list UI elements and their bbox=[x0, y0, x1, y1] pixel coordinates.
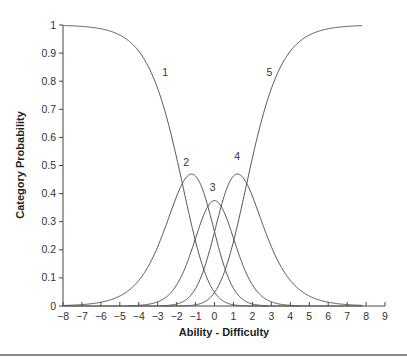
x-tick-label: −4 bbox=[133, 310, 145, 322]
y-tick-label: 1 bbox=[50, 19, 56, 31]
x-tick-label: 4 bbox=[287, 310, 293, 322]
x-tick-label: −6 bbox=[95, 310, 107, 322]
x-axis-title: Ability - Difficulty bbox=[179, 326, 270, 338]
curve-labels: 12345 bbox=[162, 66, 272, 193]
curve-label-4: 4 bbox=[234, 150, 240, 162]
curve-label-1: 1 bbox=[162, 66, 168, 78]
y-tick-label: 0.4 bbox=[41, 187, 56, 199]
y-tick-label: 0.3 bbox=[41, 215, 56, 227]
x-tick-label: 1 bbox=[231, 310, 237, 322]
curve-label-5: 5 bbox=[267, 66, 273, 78]
x-tick-label: −7 bbox=[76, 310, 88, 322]
y-tick-label: 0.5 bbox=[41, 159, 56, 171]
x-axis: −8−7−6−5−4−3−2−10123456789 bbox=[57, 302, 388, 322]
x-tick-label: −2 bbox=[171, 310, 183, 322]
x-tick-label: 9 bbox=[382, 310, 388, 322]
y-axis-title: Category Probability bbox=[14, 110, 26, 218]
x-tick-label: −5 bbox=[114, 310, 126, 322]
y-tick-label: 0 bbox=[50, 300, 56, 312]
curve-category-2 bbox=[63, 174, 268, 306]
curve-label-2: 2 bbox=[183, 156, 189, 168]
curve-category-4 bbox=[161, 174, 362, 306]
probability-curves bbox=[63, 26, 362, 306]
y-tick-label: 0.8 bbox=[41, 75, 56, 87]
curve-category-1 bbox=[63, 26, 362, 306]
y-tick-label: 0.9 bbox=[41, 47, 56, 59]
x-tick-label: −8 bbox=[57, 310, 69, 322]
x-tick-label: 3 bbox=[268, 310, 274, 322]
y-tick-label: 0.1 bbox=[41, 271, 56, 283]
x-tick-label: 8 bbox=[363, 310, 369, 322]
y-axis: 00.10.20.30.40.50.60.70.80.91 bbox=[41, 19, 63, 312]
x-tick-label: 2 bbox=[249, 310, 255, 322]
x-tick-label: 0 bbox=[212, 310, 218, 322]
x-tick-label: 7 bbox=[344, 310, 350, 322]
y-tick-label: 0.6 bbox=[41, 131, 56, 143]
x-tick-label: 5 bbox=[306, 310, 312, 322]
curve-label-3: 3 bbox=[210, 181, 216, 193]
curve-category-5 bbox=[63, 26, 362, 306]
bottom-divider-rule bbox=[0, 354, 407, 356]
category-probability-chart: 00.10.20.30.40.50.60.70.80.91 −8−7−6−5−4… bbox=[0, 0, 407, 362]
x-tick-label: −3 bbox=[152, 310, 164, 322]
x-tick-label: 6 bbox=[325, 310, 331, 322]
x-tick-label: −1 bbox=[190, 310, 202, 322]
y-tick-label: 0.2 bbox=[41, 243, 56, 255]
y-tick-label: 0.7 bbox=[41, 103, 56, 115]
